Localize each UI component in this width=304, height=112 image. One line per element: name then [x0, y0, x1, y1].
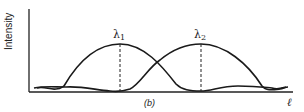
peak2-symbol: λ [194, 28, 201, 41]
peak1-label: λ1 [113, 28, 125, 42]
figure-caption: (b) [144, 98, 155, 108]
curve-lambda1 [37, 44, 286, 91]
curve-lambda2 [34, 44, 288, 91]
peak1-symbol: λ [113, 28, 120, 41]
plot-area [0, 0, 304, 112]
x-axis-label: ℓ [287, 96, 292, 109]
peak2-index: 2 [201, 33, 206, 42]
peak1-index: 1 [120, 33, 125, 42]
peak2-label: λ2 [194, 28, 206, 42]
y-axis-label: Intensity [3, 13, 14, 50]
intensity-figure: Intensity λ1 λ2 (b) ℓ [0, 0, 304, 112]
